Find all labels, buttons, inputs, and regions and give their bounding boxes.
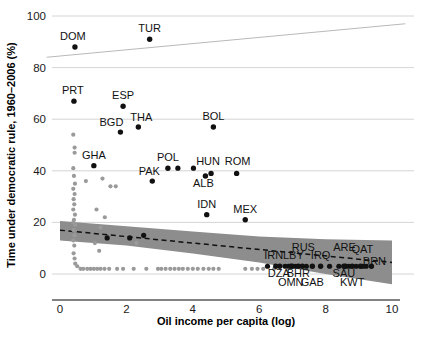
data-point-grey [73, 145, 77, 149]
point-label-idn: IDN [197, 198, 216, 210]
data-point-grey [84, 179, 88, 183]
data-point-grey [243, 267, 247, 271]
data-point-grey [201, 267, 205, 271]
point-label-qat: QAT [352, 243, 374, 255]
data-point-grey [72, 228, 76, 232]
point-label-alb: ALB [193, 177, 214, 189]
data-point-grey [94, 207, 98, 211]
data-point-grey [72, 251, 76, 255]
point-label-prt: PRT [62, 84, 84, 96]
point-label-mex: MEX [233, 203, 258, 215]
data-point-grey [132, 267, 136, 271]
data-point-rom [234, 171, 239, 176]
data-point-grey [71, 166, 75, 170]
upper-trend-segment [47, 24, 406, 58]
data-point-grey [196, 267, 200, 271]
data-point-grey [100, 176, 104, 180]
data-point-grey [191, 267, 195, 271]
data-point-grey [73, 256, 77, 260]
y-axis-title: Time under democratic rule, 1960–2006 (%… [5, 42, 17, 268]
point-label-esp: ESP [112, 89, 134, 101]
data-point-grey [103, 215, 107, 219]
data-point-mex [243, 217, 248, 222]
y-tick-100: 100 [27, 10, 46, 22]
data-point-grey [211, 267, 215, 271]
data-point-grey [71, 238, 75, 242]
data-point-grey [72, 174, 76, 178]
point-label-pol: POL [157, 151, 179, 163]
chart-container: DOMTURPRTESPBGDTHABOLGHAPOLPAKHUNROMALBI… [0, 0, 422, 342]
y-tick-0: 0 [40, 268, 46, 280]
data-point-grey [261, 267, 265, 271]
x-tick-10: 10 [386, 303, 399, 315]
data-point-grey [73, 233, 77, 237]
scatter-plot-svg: DOMTURPRTESPBGDTHABOLGHAPOLPAKHUNROMALBI… [0, 0, 422, 342]
x-axis-tick-labels: 0246810 [57, 303, 399, 315]
data-point-pak [150, 178, 155, 183]
data-point-grey [144, 267, 148, 271]
data-point-grey [186, 267, 190, 271]
data-point [327, 264, 332, 269]
data-point-grey [73, 151, 77, 155]
data-point-grey [159, 267, 163, 271]
data-point-grey [102, 267, 106, 271]
data-point [105, 235, 110, 240]
data-point-grey [73, 213, 77, 217]
data-point-pol [165, 166, 170, 171]
data-point-idn [204, 212, 209, 217]
data-point-grey [207, 267, 211, 271]
point-label-pak: PAK [139, 165, 161, 177]
data-point-prt [71, 98, 76, 103]
data-point-grey [93, 241, 97, 245]
x-tick-4: 4 [190, 303, 197, 315]
data-point-grey [72, 202, 76, 206]
data-point [175, 166, 180, 171]
data-point-grey [163, 267, 167, 271]
data-point-grey [71, 207, 75, 211]
data-point-grey [71, 187, 75, 191]
data-point-grey [73, 192, 77, 196]
point-label-tha: THA [130, 111, 153, 123]
y-tick-20: 20 [33, 216, 46, 228]
data-point-grey [217, 267, 221, 271]
data-point-grey [172, 267, 176, 271]
data-point-grey [72, 244, 76, 248]
data-point-grey [73, 223, 77, 227]
point-label-irn: IRN [264, 249, 283, 261]
point-label-brn: BRN [363, 255, 386, 267]
data-point-grey [71, 133, 75, 137]
data-point-grey [107, 267, 111, 271]
data-point-gab [310, 264, 315, 269]
y-axis-tick-labels: 020406080100 [27, 10, 46, 280]
point-label-gha: GHA [82, 149, 107, 161]
y-tick-40: 40 [33, 165, 46, 177]
point-label-bgd: BGD [100, 116, 124, 128]
data-point-esp [120, 104, 125, 109]
data-point-grey [181, 267, 185, 271]
data-point-tur [147, 37, 152, 42]
point-label-rom: ROM [225, 155, 251, 167]
data-point-grey [255, 267, 259, 271]
data-point-irq [318, 264, 323, 269]
data-point [127, 235, 132, 240]
data-point-grey [134, 241, 138, 245]
data-point-grey [98, 267, 102, 271]
data-point-hun [208, 171, 213, 176]
upper-trend-line [47, 24, 406, 58]
data-point [141, 233, 146, 238]
data-point-grey [98, 225, 102, 229]
x-tick-8: 8 [322, 303, 328, 315]
point-label-irq: IRQ [311, 249, 331, 261]
x-tick-0: 0 [57, 303, 63, 315]
point-label-tur: TUR [138, 22, 161, 34]
point-label-dom: DOM [60, 30, 86, 42]
point-label-kwt: KWT [340, 276, 365, 288]
data-point-grey [108, 184, 112, 188]
point-label-bol: BOL [202, 110, 224, 122]
data-point-tha [136, 124, 141, 129]
data-point-gha [91, 163, 96, 168]
data-point-bol [211, 124, 216, 129]
data-point-dom [72, 44, 77, 49]
y-tick-60: 60 [33, 113, 46, 125]
data-point-grey [97, 249, 101, 253]
